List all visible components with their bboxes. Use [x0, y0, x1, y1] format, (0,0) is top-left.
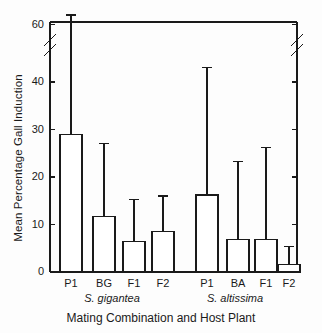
species-label-gigantea: S. gigantea	[52, 292, 172, 304]
species-label-altissima: S. altissima	[175, 292, 295, 304]
y-tick-label: 30	[18, 123, 44, 135]
x-axis-title: Mating Combination and Host Plant	[0, 311, 322, 325]
bar-group	[255, 148, 277, 272]
bar-group	[93, 144, 115, 272]
y-tick-label: 60	[18, 18, 44, 30]
bar-group	[196, 68, 218, 272]
y-tick-label: 10	[18, 218, 44, 230]
x-category-label: F2	[143, 277, 183, 289]
y-tick-label: 0	[18, 265, 44, 277]
bar-group	[227, 161, 249, 272]
y-tick-label: 20	[18, 170, 44, 182]
bar-chart-figure: Mean Percentage Gall Induction Mating Co…	[0, 0, 322, 333]
axis-break-marks	[44, 34, 303, 56]
y-tick-label: 40	[18, 75, 44, 87]
bar-series	[60, 15, 300, 272]
x-category-label: F2	[269, 277, 309, 289]
bar-group	[123, 199, 145, 272]
bar-group	[152, 196, 174, 272]
bar-group	[60, 15, 82, 272]
